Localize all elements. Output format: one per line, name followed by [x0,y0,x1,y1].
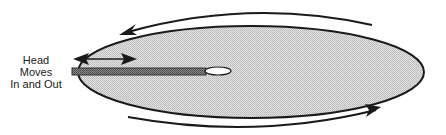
label-line-1: Head [0,54,72,66]
spindle-hole [205,67,231,75]
head-arm [72,68,206,75]
head-moves-label: Head Moves In and Out [0,54,72,90]
label-line-2: Moves [0,66,72,78]
arrowhead-right-icon [365,104,381,117]
label-line-3: In and Out [0,78,72,90]
